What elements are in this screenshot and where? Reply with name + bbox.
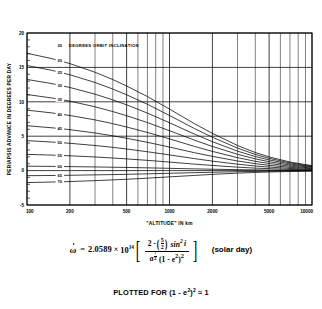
equals-sign: =: [77, 246, 88, 254]
power-of-ten: 1014: [120, 245, 134, 255]
five-halves-fraction: 5 2: [160, 237, 164, 250]
eccentricity-group: (1 - e2)2: [157, 253, 184, 263]
seven-halves-exponent: 7 2: [154, 250, 158, 261]
y-tick-label-20: 20: [19, 31, 25, 36]
omega-dot-symbol: ω: [70, 246, 78, 255]
curve-label-60: 60: [58, 164, 63, 169]
five-halves-den: 2: [161, 244, 164, 250]
paren-left: (: [157, 237, 160, 250]
main-fraction: 2 - ( 5 2 ) sin2 i a 7: [142, 236, 191, 265]
x-tick-label-100: 100: [26, 209, 34, 214]
numerator-lead: 2 -: [148, 240, 156, 248]
paren-right: ): [165, 237, 168, 250]
y-axis-labels: -505101520: [19, 31, 25, 208]
curve-label-50: 50: [58, 140, 63, 145]
seven-halves-den: 2: [154, 256, 157, 261]
orbit-inclination-note-value: 20: [58, 43, 63, 48]
curve-label-65: 65: [58, 173, 63, 178]
x-tick-label-10000: 10000: [300, 209, 313, 214]
y-tick-label-10: 10: [19, 100, 25, 105]
equation-row: ω = 2.0589 × 1014 [ 2 - ( 5 2 ) sin2 i: [70, 236, 252, 265]
x-tick-label-200: 200: [66, 209, 74, 214]
x-tick-label-1000: 1000: [164, 209, 175, 214]
x-tick-label-500: 500: [123, 209, 131, 214]
y-tick-label-15: 15: [19, 65, 25, 70]
x-tick-label-2000: 2000: [207, 209, 218, 214]
grid-lines: [27, 33, 312, 205]
y-tick-label--5: -5: [20, 203, 25, 208]
x-axis-labels: 10020050010002000500010000: [26, 209, 313, 214]
bracket-left: [: [136, 240, 141, 261]
caption-suffix: ≈ 1: [196, 288, 209, 297]
curve-label-35: 35: [58, 97, 63, 102]
x-axis-title: "ALTITUDE" IN km: [146, 221, 192, 226]
caption-prefix: PLOTTED FOR (1 - e: [113, 288, 187, 297]
y-tick-label-0: 0: [21, 168, 24, 173]
periapsis-advance-chart: 2025303540455055606570DEGREES ORBIT INCL…: [0, 0, 322, 232]
y-tick-label-5: 5: [21, 134, 24, 139]
equation-block: ω = 2.0589 × 1014 [ 2 - ( 5 2 ) sin2 i: [0, 236, 322, 265]
curve-label-20: 20: [58, 58, 63, 63]
bracket-right: ]: [193, 240, 198, 261]
curve-label-40: 40: [58, 112, 63, 117]
curve-label-30: 30: [58, 83, 63, 88]
curve-label-70: 70: [58, 179, 63, 184]
x-tick-label-5000: 5000: [264, 209, 275, 214]
curve-label-45: 45: [58, 126, 63, 131]
curve-label-25: 25: [58, 70, 63, 75]
inclination-variable: i: [182, 240, 186, 248]
fraction-numerator: 2 - ( 5 2 ) sin2 i: [148, 236, 186, 251]
y-axis-title: PERIAPSIS ADVANCE IN DEGREES PER DAY: [7, 62, 12, 175]
times-sign: ×: [112, 246, 121, 254]
orbit-inclination-note: DEGREES ORBIT INCLINATION: [69, 43, 139, 48]
coefficient: 2.0589: [88, 246, 112, 254]
sin-squared-term: sin2: [169, 239, 183, 248]
figure-caption: PLOTTED FOR (1 - e2)2 ≈ 1: [0, 287, 322, 297]
units-label: (solar day): [200, 246, 252, 254]
fraction-denominator: a 7 2 (1 - e2)2: [150, 252, 184, 265]
figure-container: 2025303540455055606570DEGREES ORBIT INCL…: [0, 0, 322, 309]
curve-labels: 2025303540455055606570: [56, 58, 64, 184]
curve-label-55: 55: [58, 153, 63, 158]
